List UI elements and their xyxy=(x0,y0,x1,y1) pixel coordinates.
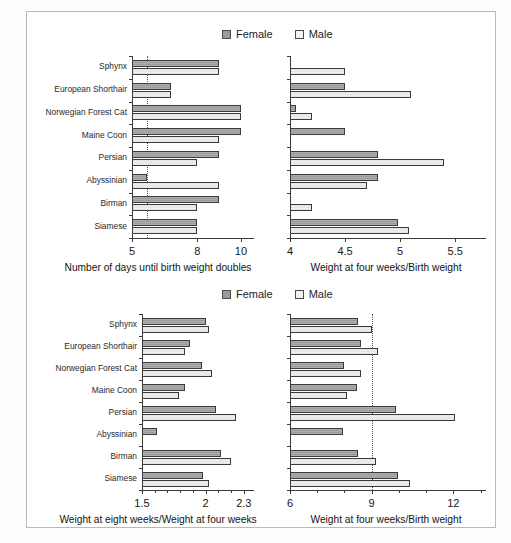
x-axis-minor-tick xyxy=(426,490,427,493)
bar-female xyxy=(132,219,197,226)
legend-label-male-2: Male xyxy=(309,288,333,300)
y-axis-tick xyxy=(287,468,290,469)
x-axis-minor-tick xyxy=(231,490,232,493)
bar-female xyxy=(290,450,358,457)
x-axis-title: Number of days until birth weight double… xyxy=(65,262,252,273)
x-axis-minor-tick xyxy=(167,490,168,493)
y-axis-tick xyxy=(287,102,290,103)
bar-female xyxy=(290,128,345,135)
x-axis-minor-tick xyxy=(399,490,400,493)
bar-female xyxy=(132,174,147,181)
y-axis-tick xyxy=(287,215,290,216)
y-axis-tick xyxy=(287,79,290,80)
bar-male xyxy=(290,113,312,120)
bar-male xyxy=(290,392,347,399)
category-label: Sphynx xyxy=(40,61,127,71)
y-axis-tick xyxy=(287,380,290,381)
bar-male xyxy=(142,458,231,465)
y-axis-tick xyxy=(139,358,142,359)
bar-female xyxy=(290,384,357,391)
category-label: European Shorthair xyxy=(40,84,127,94)
x-axis-tick-label: 4.5 xyxy=(337,245,352,257)
category-label: Maine Coon xyxy=(40,385,137,395)
x-axis-tick xyxy=(345,238,346,242)
x-axis-tick-label: 6 xyxy=(287,497,293,509)
y-axis-tick xyxy=(287,336,290,337)
y-axis-tick xyxy=(139,446,142,447)
y-axis-tick xyxy=(139,380,142,381)
bar-female xyxy=(142,472,203,479)
category-label: Norwegian Forest Cat xyxy=(40,363,137,373)
chart-panel-weight-eight-weeks-over-four-weeks: 1.522.3SphynxEuropean ShorthairNorwegian… xyxy=(40,310,255,522)
bar-male xyxy=(290,182,367,189)
bar-male xyxy=(290,348,378,355)
y-axis-tick xyxy=(129,79,132,80)
x-axis-tick xyxy=(290,238,291,242)
x-axis-tick-label: 1.5 xyxy=(134,497,149,509)
bar-female xyxy=(290,472,398,479)
category-label: Persian xyxy=(40,152,127,162)
category-label: Norwegian Forest Cat xyxy=(40,107,127,117)
y-axis-tick xyxy=(287,56,290,57)
bar-male xyxy=(142,370,212,377)
category-label: Abyssinian xyxy=(40,175,127,185)
legend-swatch-male-icon-2 xyxy=(295,290,304,299)
bar-female xyxy=(290,340,361,347)
bar-female xyxy=(142,318,206,325)
bar-female xyxy=(290,151,378,158)
x-axis-tick-label: 2.3 xyxy=(236,497,251,509)
legend-swatch-male-icon xyxy=(295,30,304,39)
legend-item-male: Male xyxy=(295,28,333,40)
category-label: Sphynx xyxy=(40,319,137,329)
x-axis-line xyxy=(290,490,486,491)
x-axis-tick-label: 4 xyxy=(287,245,293,257)
chart-panel-weight-four-weeks-over-birth-weight-top: 44.555.5Weight at four weeks/Birth weigh… xyxy=(268,52,488,267)
legend-top: Female Male xyxy=(222,28,333,40)
bar-female xyxy=(132,196,219,203)
y-axis-tick xyxy=(139,468,142,469)
chart-panel-days-until-birth-weight-doubles: 5810SphynxEuropean ShorthairNorwegian Fo… xyxy=(40,52,255,267)
x-axis-tick xyxy=(455,238,456,242)
x-axis-tick-label: 10 xyxy=(235,245,247,257)
bar-male xyxy=(290,159,444,166)
x-axis-tick-label: 12 xyxy=(447,497,459,509)
figure-canvas: Female Male Female Male 5810SphynxEurope… xyxy=(0,0,511,543)
bar-male xyxy=(132,159,197,166)
x-axis-title: Weight at four weeks/Birth weight xyxy=(311,262,462,273)
x-axis-title: Weight at four weeks/Birth weight xyxy=(311,514,462,525)
bar-male xyxy=(142,326,209,333)
y-axis-tick xyxy=(287,314,290,315)
y-axis-tick xyxy=(129,147,132,148)
y-axis-tick xyxy=(139,336,142,337)
x-axis-tick xyxy=(244,490,245,494)
x-axis-minor-tick xyxy=(481,490,482,493)
category-label: Persian xyxy=(40,407,137,417)
y-axis-tick xyxy=(129,102,132,103)
y-axis-tick xyxy=(139,402,142,403)
bar-female xyxy=(142,406,216,413)
x-axis-tick-label: 5.5 xyxy=(448,245,463,257)
bar-male xyxy=(142,480,209,487)
bar-male xyxy=(132,113,241,120)
y-axis-tick xyxy=(139,424,142,425)
legend-label-female: Female xyxy=(236,28,273,40)
x-axis-tick-label: 9 xyxy=(369,497,375,509)
x-axis-line xyxy=(142,490,254,491)
category-label: Abyssinian xyxy=(40,429,137,439)
category-label: Maine Coon xyxy=(40,130,127,140)
x-axis-minor-tick xyxy=(155,490,156,493)
x-axis-tick xyxy=(132,238,133,242)
bar-female xyxy=(290,105,296,112)
bar-male xyxy=(132,91,171,98)
y-axis-tick xyxy=(287,193,290,194)
y-axis-tick xyxy=(129,56,132,57)
x-axis-minor-tick xyxy=(193,490,194,493)
category-label: European Shorthair xyxy=(40,341,137,351)
category-label: Siamese xyxy=(40,221,127,231)
x-axis-tick xyxy=(197,238,198,242)
y-axis-tick xyxy=(287,124,290,125)
y-axis-tick xyxy=(129,193,132,194)
y-axis-tick xyxy=(139,314,142,315)
bar-male xyxy=(290,370,361,377)
y-axis-tick xyxy=(287,446,290,447)
